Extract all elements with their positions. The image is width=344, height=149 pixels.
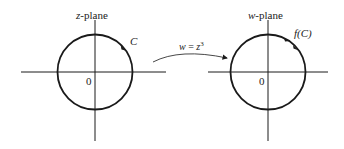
z-origin-label: 0 (86, 75, 92, 87)
mapping-arrow (153, 54, 227, 62)
w-origin-label: 0 (259, 75, 265, 87)
w-plane-title: w-plane (248, 9, 283, 21)
conformal-map-diagram: z-plane 0 C w = z3 w-plane 0 f(C) (0, 0, 344, 149)
diagram-graphics (0, 0, 344, 149)
w-direction-arrow-icon-1 (284, 38, 290, 42)
z-plane-title: z-plane (76, 9, 108, 21)
mapping-eq: = (186, 41, 197, 52)
mapping-label: w = z3 (179, 38, 204, 53)
mapping-lhs: w (179, 41, 186, 52)
curve-fc-label: f(C) (294, 27, 312, 39)
w-plane-rest: -plane (255, 9, 282, 21)
z-plane (21, 20, 166, 141)
mapping-exp: 3 (200, 40, 204, 48)
z-plane-rest: -plane (80, 9, 107, 21)
curve-c-label: C (130, 35, 137, 47)
